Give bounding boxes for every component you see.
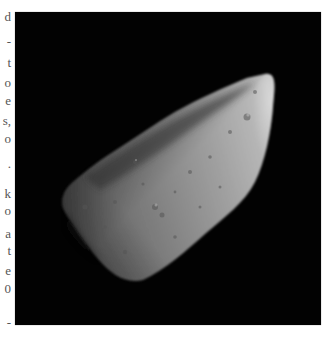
text-fragment: o xyxy=(5,204,12,218)
asteroid-photo xyxy=(15,12,321,325)
text-fragment: . xyxy=(8,157,11,171)
text-fragment: k xyxy=(5,187,12,201)
text-fragment: a xyxy=(5,227,11,241)
text-fragment: t xyxy=(7,56,11,70)
text-fragment: t xyxy=(7,244,11,258)
text-fragment: o xyxy=(5,76,12,90)
text-fragment: o xyxy=(5,132,12,146)
text-fragment: d xyxy=(5,10,12,24)
text-fragment: 0 xyxy=(5,282,12,296)
text-fragment: s, xyxy=(3,114,11,128)
text-fragment: e xyxy=(5,94,11,108)
asteroid-image xyxy=(15,12,321,325)
text-fragment: - xyxy=(7,316,11,330)
cropped-text-column: d - t o e s, o . k o a t e 0 - xyxy=(0,0,12,340)
text-fragment: e xyxy=(5,264,11,278)
text-fragment: - xyxy=(7,35,11,49)
